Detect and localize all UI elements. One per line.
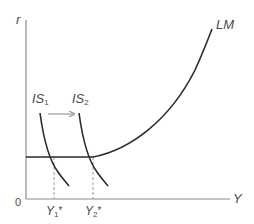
is-lm-diagram: r Y 0 LM IS1 IS2 Y1* Y2* [0,0,254,224]
is2-label: IS2 [72,91,89,107]
lm-label: LM [216,17,234,32]
y-axis-label: r [16,12,21,27]
origin-label: 0 [15,196,21,208]
is1-label-main: IS [32,91,45,106]
is1-label-sub: 1 [44,98,49,107]
is2-curve [79,113,108,186]
is2-label-sub: 2 [84,98,89,107]
is1-curve [40,113,69,186]
is2-label-main: IS [72,91,85,106]
x-axis-label: Y [233,191,243,206]
lm-curve [26,29,212,157]
y2-star-label: Y2* [85,204,101,219]
y1-star-label: Y1* [46,204,62,219]
is1-label: IS1 [32,91,49,107]
